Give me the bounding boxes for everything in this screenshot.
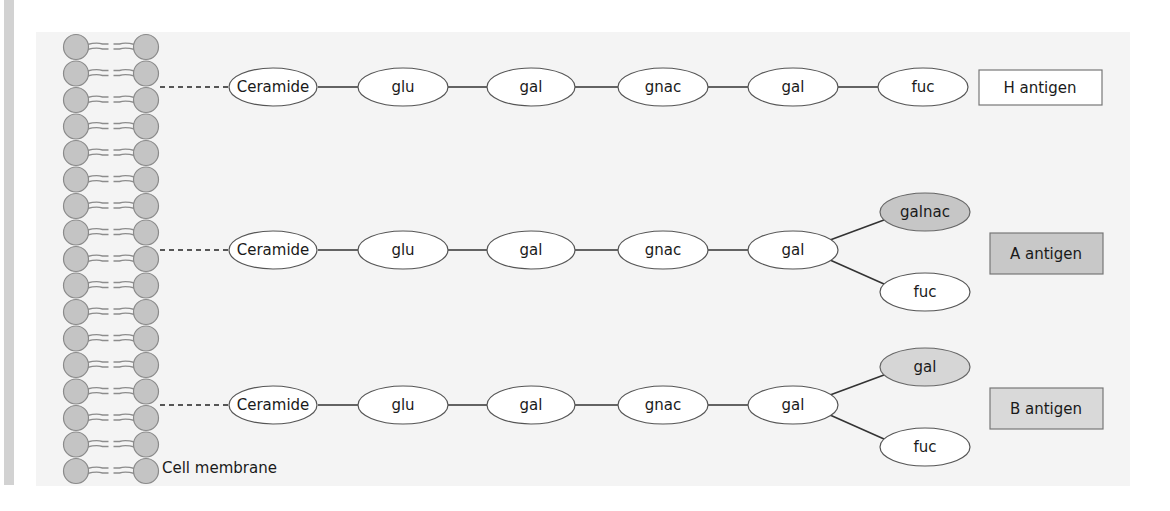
lipid-tail — [114, 70, 135, 71]
sugar-galnac: galnac — [880, 193, 970, 231]
lipid-tail — [114, 414, 135, 415]
phosphate-head — [134, 220, 159, 245]
phosphate-head — [134, 353, 159, 378]
lipid-tail — [88, 229, 109, 230]
lipid-tail — [114, 335, 135, 336]
phosphate-head — [64, 167, 89, 192]
bond-line — [830, 260, 884, 284]
phosphate-head — [64, 379, 89, 404]
lipid-tail — [88, 340, 109, 341]
phospholipid-pair — [64, 114, 159, 139]
phosphate-head — [134, 432, 159, 457]
sugar-gal: gal — [748, 68, 838, 106]
svg-text:gal: gal — [782, 396, 805, 414]
svg-text:galnac: galnac — [900, 203, 950, 221]
sugar-fuc: fuc — [880, 273, 970, 311]
phosphate-head — [64, 406, 89, 431]
phosphate-head — [64, 141, 89, 166]
chain-a-antigen: Ceramide glu gal gnac gal galnac fuc A — [160, 193, 1103, 311]
phosphate-head — [134, 459, 159, 484]
phosphate-head — [64, 35, 89, 60]
svg-text:gal: gal — [782, 78, 805, 96]
antigen-label-b: B antigen — [990, 388, 1103, 429]
svg-text:Ceramide: Ceramide — [237, 241, 310, 259]
svg-text:Ceramide: Ceramide — [237, 396, 310, 414]
chain-h-antigen: Ceramide glu gal gnac gal fuc H antigen — [160, 68, 1102, 106]
phospholipid-pair — [64, 141, 159, 166]
lipid-tail — [114, 282, 135, 283]
bond-line — [830, 415, 884, 439]
lipid-tail — [114, 149, 135, 150]
phosphate-head — [64, 353, 89, 378]
sugar-ceramide: Ceramide — [229, 68, 317, 106]
phospholipid-pair — [64, 300, 159, 325]
lipid-tail — [114, 308, 135, 309]
phosphate-head — [64, 432, 89, 457]
phosphate-head — [134, 61, 159, 86]
phosphate-head — [134, 114, 159, 139]
lipid-tail — [88, 202, 109, 203]
sugar-fuc: fuc — [880, 428, 970, 466]
lipid-tail — [88, 335, 109, 336]
lipid-tail — [114, 154, 135, 155]
phosphate-head — [64, 88, 89, 113]
lipid-tail — [88, 441, 109, 442]
lipid-tail — [114, 366, 135, 367]
lipid-tail — [114, 255, 135, 256]
sugar-gnac: gnac — [618, 231, 708, 269]
phosphate-head — [64, 61, 89, 86]
svg-text:glu: glu — [391, 396, 414, 414]
lipid-tail — [114, 287, 135, 288]
phosphate-head — [134, 406, 159, 431]
lipid-tail — [88, 260, 109, 261]
sugar-ceramide: Ceramide — [229, 386, 317, 424]
lipid-tail — [88, 207, 109, 208]
svg-text:gal: gal — [914, 358, 937, 376]
lipid-tail — [88, 96, 109, 97]
lipid-tail — [114, 441, 135, 442]
lipid-tail — [114, 229, 135, 230]
lipid-tail — [88, 181, 109, 182]
phosphate-head — [134, 35, 159, 60]
sugar-gnac: gnac — [618, 68, 708, 106]
sugar-glu: glu — [358, 386, 448, 424]
phospholipid-pair — [64, 432, 159, 457]
lipid-tail — [88, 43, 109, 44]
phosphate-head — [64, 114, 89, 139]
lipid-tail — [88, 308, 109, 309]
phosphate-head — [64, 194, 89, 219]
lipid-tail — [88, 48, 109, 49]
svg-text:gal: gal — [520, 78, 543, 96]
lipid-tail — [114, 361, 135, 362]
cell-membrane — [64, 35, 159, 484]
lipid-tail — [114, 48, 135, 49]
svg-text:fuc: fuc — [913, 283, 936, 301]
sugar-gal: gal — [487, 68, 575, 106]
phosphate-head — [64, 247, 89, 272]
bond-line — [830, 375, 884, 395]
svg-text:glu: glu — [391, 241, 414, 259]
phosphate-head — [134, 194, 159, 219]
sugar-gnac: gnac — [618, 386, 708, 424]
lipid-tail — [114, 128, 135, 129]
svg-text:A antigen: A antigen — [1010, 245, 1082, 263]
phospholipid-pair — [64, 35, 159, 60]
lipid-tail — [88, 70, 109, 71]
lipid-tail — [88, 128, 109, 129]
lipid-tail — [114, 446, 135, 447]
svg-text:Ceramide: Ceramide — [237, 78, 310, 96]
lipid-tail — [88, 176, 109, 177]
phosphate-head — [64, 273, 89, 298]
svg-text:gal: gal — [782, 241, 805, 259]
lipid-tail — [114, 207, 135, 208]
phospholipid-pair — [64, 459, 159, 484]
sugar-ceramide: Ceramide — [229, 231, 317, 269]
sugar-gal: gal — [748, 231, 838, 269]
lipid-tail — [88, 361, 109, 362]
sugar-gal: gal — [487, 386, 575, 424]
svg-text:gal: gal — [520, 396, 543, 414]
lipid-tail — [88, 101, 109, 102]
phosphate-head — [64, 220, 89, 245]
phospholipid-pair — [64, 220, 159, 245]
phospholipid-pair — [64, 61, 159, 86]
